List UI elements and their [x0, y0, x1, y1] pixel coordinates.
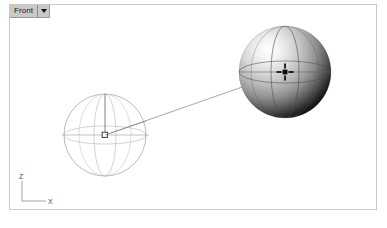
axis-gizmo-x-label: X [48, 198, 53, 205]
axis-gizmo-z-label: Z [19, 173, 24, 180]
viewport-title-label: Front [10, 5, 37, 17]
screenshot-root: Z X Front [0, 0, 387, 228]
shaded-sphere[interactable] [239, 26, 331, 118]
viewport-title-tab[interactable]: Front [10, 5, 50, 18]
viewport-scene[interactable]: Z X [10, 5, 376, 209]
viewport-front[interactable]: Z X Front [9, 4, 377, 210]
chevron-down-icon[interactable] [38, 5, 49, 17]
axis-gizmo: Z X [19, 173, 53, 205]
